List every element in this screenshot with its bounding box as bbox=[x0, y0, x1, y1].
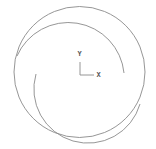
drawing-canvas[interactable]: Y X bbox=[0, 0, 156, 149]
canvas-background bbox=[0, 0, 156, 149]
